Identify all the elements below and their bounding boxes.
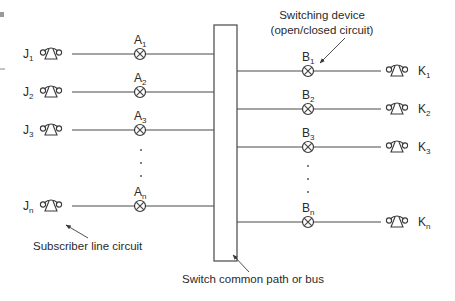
switch-icon [135,87,146,98]
switch-icon [303,217,314,228]
subscriber-label: J1 [23,47,34,63]
switching-device-arrow [320,38,345,63]
subscriber-label: Kn [418,215,430,231]
telephone-icon [40,124,61,135]
switching-diagram: J1 A1 J2 A2 J3 A3 Jn An B1 K1 [0,0,455,301]
switch-icon [303,142,314,153]
right-row-2: B2 K2 [237,88,431,118]
telephone-icon [386,103,407,114]
subscriber-label: K1 [418,64,431,80]
bus-arrow [233,255,249,272]
telephone-icon [386,65,407,76]
switch-label: B1 [302,50,315,66]
subscriber-label: K2 [418,102,431,118]
telephone-icon [386,216,407,227]
switch-icon [303,66,314,77]
left-row-n: Jn An [23,185,214,215]
subscriber-line-caption: Subscriber line circuit [33,240,143,252]
left-row-3: J3 A3 [23,109,214,139]
switch-icon [135,201,146,212]
right-row-3: B3 K3 [237,126,431,156]
telephone-icon [40,86,61,97]
left-ellipsis [140,149,142,177]
subscriber-label: K3 [418,140,431,156]
switch-label: A1 [134,33,147,49]
common-bus [214,25,237,261]
switch-label: An [134,185,146,201]
left-row-1: J1 A1 [23,33,214,63]
subscriber-label: J2 [23,85,34,101]
right-row-n: Bn Kn [237,201,430,231]
switching-device-caption: Switching device [279,9,365,21]
switch-label: B2 [302,88,315,104]
left-row-2: J2 A2 [23,71,214,101]
bus-caption: Switch common path or bus [182,273,324,285]
margin-mark [0,12,4,17]
switch-label: B3 [302,126,315,142]
right-ellipsis [307,165,309,193]
switch-icon [303,104,314,115]
telephone-icon [40,200,61,211]
subscriber-line-arrow [66,225,88,238]
switch-icon [135,125,146,136]
switch-label: A3 [134,109,147,125]
switch-icon [135,49,146,60]
telephone-icon [40,48,61,59]
switch-label: Bn [302,201,314,217]
subscriber-label: Jn [23,199,33,215]
subscriber-label: J3 [23,123,34,139]
switch-label: A2 [134,71,147,87]
right-row-1: B1 K1 [237,50,431,80]
telephone-icon [386,141,407,152]
switching-device-caption-2: (open/closed circuit) [271,24,374,36]
